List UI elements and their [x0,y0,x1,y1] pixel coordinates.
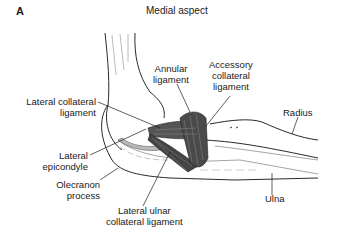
ligament-bundle [148,112,208,172]
figure-title: Medial aspect [146,5,208,16]
label-line: collateral [209,70,253,81]
label-radius: Radius [283,107,313,118]
label-line: Olecranon [40,179,100,190]
label-olecranon-process: Olecranon process [40,179,100,201]
label-lateral-ulnar-collateral-ligament: Lateral ulnar collateral ligament [106,205,183,227]
leader-radius [292,117,298,134]
label-line: ligament [153,74,189,85]
label-lateral-epicondyle: Lateral epicondyle [30,150,88,172]
label-line: Annular [153,63,189,74]
elbow-illustration [0,0,343,238]
panel-letter: A [16,5,24,17]
label-line: Lateral ulnar [106,205,183,216]
leader-lateral-ulnar [143,152,170,206]
elbow-ligament-diagram: A Medial aspect Annular ligament Accesso… [0,0,343,238]
radius-bone [205,120,318,160]
label-line: process [40,190,100,201]
label-line: ligament [18,107,96,118]
label-line: Accessory [209,59,253,70]
label-lateral-collateral-ligament: Lateral collateral ligament [18,96,96,118]
label-line: ligament [209,81,253,92]
leader-annular [177,84,190,112]
label-ulna: Ulna [265,193,285,204]
label-line: collateral ligament [106,216,183,227]
label-annular-ligament: Annular ligament [153,63,189,85]
leader-olecranon [100,168,118,180]
label-line: epicondyle [30,161,88,172]
label-line: Lateral [30,150,88,161]
label-line: Lateral collateral [18,96,96,107]
label-accessory-collateral-ligament: Accessory collateral ligament [209,59,253,92]
